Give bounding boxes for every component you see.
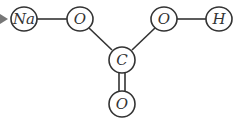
atom-o-left: O — [67, 7, 93, 31]
bond-o-c-left — [89, 28, 112, 50]
atom-label: O — [116, 95, 128, 113]
atom-label: C — [116, 51, 128, 69]
atom-label: H — [211, 10, 226, 28]
arrow-pointer-icon — [0, 14, 8, 24]
atom-h: H — [206, 7, 232, 31]
atom-na: Na — [11, 7, 37, 31]
atom-o-bottom: O — [109, 91, 135, 117]
molecule-diagram: Na O O H C O — [0, 0, 242, 130]
atom-c: C — [109, 47, 135, 73]
bond-o-c-right — [132, 28, 155, 50]
atom-o-right: O — [151, 7, 177, 31]
atom-label: Na — [12, 10, 35, 28]
atom-label: O — [158, 10, 170, 28]
atom-label: O — [74, 10, 86, 28]
